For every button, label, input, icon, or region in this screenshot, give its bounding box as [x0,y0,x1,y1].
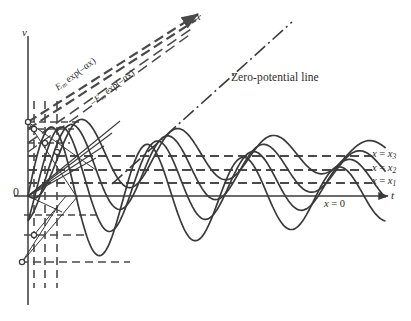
level-label-x1: x = x1 [372,176,396,187]
level-label-x1-sub: 1 [393,179,397,188]
marker-points [19,119,59,264]
marker-point [25,119,30,124]
level-label-x3-sub: 3 [393,152,397,161]
axis-label-v: v [22,27,27,38]
level-label-x0-eq: = [329,198,340,209]
marker-point [42,140,47,145]
wave-x0 [28,127,386,256]
zero-potential-line-label: Zero-potential line [231,72,319,84]
marker-point [19,259,24,264]
level-label-x2-eq: = [377,162,388,173]
level-label-x1-eq: = [377,175,388,186]
level-label-x0: x = 0 [324,199,345,210]
marker-point [31,232,36,237]
level-label-x3-eq: = [377,148,388,159]
level-label-x0-rhs: 0 [340,198,345,209]
level-label-x2: x = x2 [372,163,396,174]
origin-label: 0 [13,186,19,198]
figure-damped-wave-diagram: v x 0 t Zero-potential line Em exp(–αx) … [0,0,411,321]
marker-point [54,149,59,154]
axis-label-t: t [391,190,394,201]
envelope-upper-line-2 [28,20,196,129]
wave-x3 [28,119,386,198]
marker-point [31,126,36,131]
level-label-x2-sub: 2 [393,166,397,175]
level-label-x3: x = x3 [372,149,396,160]
diagram-canvas [0,0,411,321]
axis-label-x: x [196,11,201,22]
envelope-upper-line [28,14,198,122]
